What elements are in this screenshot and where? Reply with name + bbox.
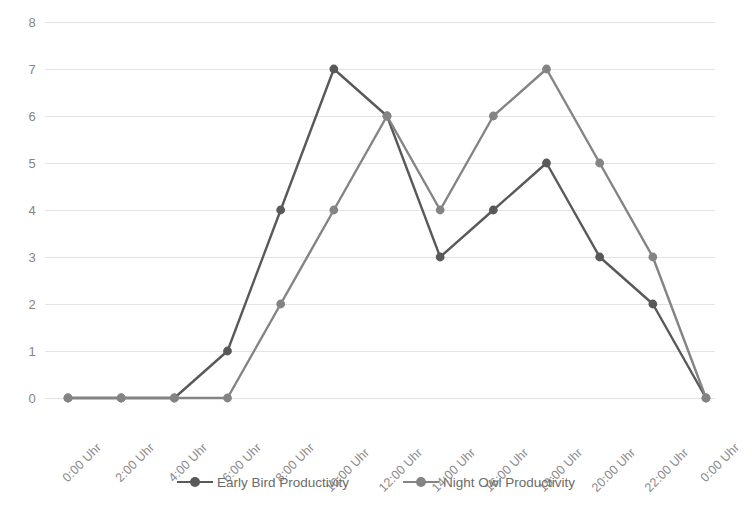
chart-series-svg (45, 22, 715, 398)
data-point-marker (542, 159, 551, 168)
data-point-marker (489, 112, 498, 121)
legend-dot-icon (190, 477, 200, 487)
y-axis-tick-label: 8 (6, 16, 36, 29)
data-point-marker (436, 253, 445, 262)
y-axis-tick-label: 7 (6, 63, 36, 76)
line-chart: 012345678 0:00 Uhr2:00 Uhr4:00 Uhr6:00 U… (0, 0, 752, 512)
legend-label: Early Bird Productivity (213, 475, 349, 490)
y-axis: 012345678 (0, 22, 36, 398)
y-axis-tick-label: 3 (6, 251, 36, 264)
plot-area (45, 22, 715, 398)
y-axis-tick-label: 4 (6, 204, 36, 217)
chart-series-2 (64, 65, 711, 403)
legend-dot-icon (416, 477, 426, 487)
data-point-marker (542, 65, 551, 74)
y-axis-tick-label: 2 (6, 298, 36, 311)
data-point-marker (648, 253, 657, 262)
data-point-marker (223, 347, 232, 356)
data-point-marker (436, 206, 445, 215)
legend-entry-1[interactable]: Early Bird Productivity (177, 475, 349, 490)
y-axis-tick-label: 5 (6, 157, 36, 170)
legend-marker-icon (403, 475, 439, 489)
y-axis-tick-label: 6 (6, 110, 36, 123)
legend-entry-2[interactable]: Night Owl Productivity (403, 475, 575, 490)
data-point-marker (595, 159, 604, 168)
data-point-marker (329, 65, 338, 74)
data-point-marker (276, 300, 285, 309)
x-axis: 0:00 Uhr2:00 Uhr4:00 Uhr6:00 Uhr8:00 Uhr… (45, 398, 715, 468)
legend-label: Night Owl Productivity (439, 475, 575, 490)
legend-marker-icon (177, 475, 213, 489)
data-point-marker (329, 206, 338, 215)
data-point-marker (595, 253, 604, 262)
y-axis-tick-label: 0 (6, 392, 36, 405)
data-point-marker (648, 300, 657, 309)
y-axis-tick-label: 1 (6, 345, 36, 358)
data-point-marker (489, 206, 498, 215)
clipped-chart-title (0, 0, 752, 4)
chart-legend: Early Bird ProductivityNight Owl Product… (0, 468, 752, 496)
data-point-marker (276, 206, 285, 215)
data-point-marker (383, 112, 392, 121)
